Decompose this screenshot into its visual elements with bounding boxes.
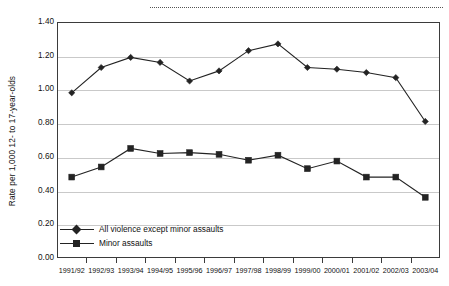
x-tick-mark [175,258,176,263]
chart-legend: All violence except minor assaults Minor… [60,222,224,250]
x-tick-mark [381,258,382,263]
x-tick-mark [116,258,117,263]
data-point-marker [216,68,222,74]
diamond-marker-icon [60,223,94,235]
x-tick-mark [411,258,412,263]
data-point-marker [393,174,399,180]
y-tick-label: 1.00 [14,84,54,93]
series-1 [69,41,429,125]
data-point-marker [422,118,428,124]
x-tick-mark [352,258,353,263]
x-tick-mark [204,258,205,263]
data-point-marker [128,54,134,60]
data-point-marker [187,150,193,156]
x-tick-mark [263,258,264,263]
x-tick-label: 2003/04 [405,266,445,275]
data-point-marker [128,146,134,152]
series-line [72,44,426,122]
x-tick-mark [86,258,87,263]
data-point-marker [334,66,340,72]
y-tick-label: 0.40 [14,186,54,195]
data-point-marker [393,75,399,81]
data-point-marker [157,59,163,65]
x-tick-mark [234,258,235,263]
x-tick-mark [322,258,323,263]
data-point-marker [334,158,340,164]
x-tick-mark [145,258,146,263]
y-tick-label: 1.40 [14,17,54,26]
square-marker-icon [60,237,94,249]
data-point-marker [275,152,281,158]
x-tick-mark [293,258,294,263]
data-point-marker [305,166,311,172]
data-point-marker [246,157,252,163]
legend-label-all-violence: All violence except minor assaults [99,224,224,234]
series-2 [69,146,428,201]
data-point-marker [245,48,251,54]
data-point-marker [422,194,428,200]
legend-item-minor-assaults: Minor assaults [60,236,224,250]
data-point-marker [363,174,369,180]
data-point-marker [186,78,192,84]
y-tick-label: 0.60 [14,152,54,161]
y-tick-label: 0.00 [14,253,54,262]
legend-item-all-violence: All violence except minor assaults [60,222,224,236]
y-tick-label: 0.20 [14,219,54,228]
y-tick-label: 0.80 [14,118,54,127]
data-point-marker [157,151,163,157]
series-line [72,148,426,197]
data-point-marker [69,174,75,180]
legend-label-minor-assaults: Minor assaults [99,238,153,248]
data-point-marker [216,151,222,157]
data-point-marker [98,164,104,170]
top-dotted-rule [150,7,443,8]
data-point-marker [363,69,369,75]
y-tick-label: 1.20 [14,51,54,60]
